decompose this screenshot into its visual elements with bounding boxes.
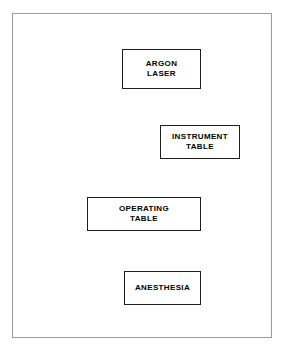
equipment-label-anesthesia: ANESTHESIA [135, 283, 190, 293]
equipment-box-anesthesia: ANESTHESIA [124, 271, 201, 305]
room-outline: ARGON LASER INSTRUMENT TABLE OPERATING T… [12, 13, 272, 338]
equipment-label-argon-laser: ARGON LASER [146, 59, 178, 79]
equipment-label-operating-table: OPERATING TABLE [119, 204, 169, 224]
equipment-label-instrument-table: INSTRUMENT TABLE [172, 132, 228, 152]
operating-room-floor-plan: ARGON LASER INSTRUMENT TABLE OPERATING T… [0, 0, 283, 351]
equipment-box-operating-table: OPERATING TABLE [87, 197, 201, 231]
equipment-box-instrument-table: INSTRUMENT TABLE [160, 125, 240, 159]
equipment-box-argon-laser: ARGON LASER [122, 49, 201, 89]
